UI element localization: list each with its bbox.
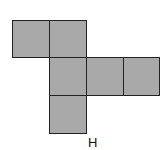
figure-label: H <box>88 136 97 149</box>
net-square-5 <box>123 57 160 96</box>
net-square-3 <box>49 57 87 96</box>
net-square-1 <box>12 20 50 58</box>
net-square-2 <box>49 20 87 58</box>
net-square-6 <box>49 95 87 134</box>
net-square-4 <box>86 57 124 96</box>
